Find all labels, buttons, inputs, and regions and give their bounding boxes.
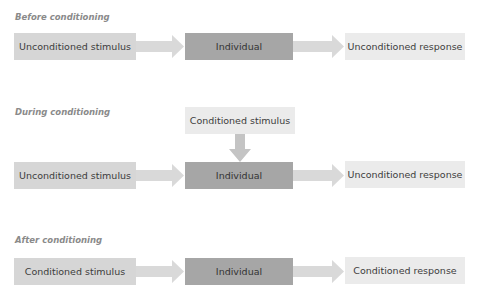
unconditioned-stimulus-box: Unconditioned stimulus [14, 162, 136, 189]
arrow-down-icon [228, 134, 252, 162]
section-title-before: Before conditioning [15, 12, 110, 22]
arrow-right-icon [136, 33, 185, 60]
individual-box: Individual [185, 33, 293, 60]
arrow-right-icon [136, 162, 185, 189]
arrow-right-icon [293, 33, 345, 60]
unconditioned-stimulus-box: Unconditioned stimulus [14, 33, 136, 60]
arrow-right-icon [136, 258, 185, 285]
section-title-during: During conditioning [15, 107, 110, 117]
conditioned-stimulus-box: Conditioned stimulus [185, 107, 295, 134]
individual-box: Individual [185, 162, 293, 189]
individual-box: Individual [185, 258, 293, 285]
unconditioned-response-box: Unconditioned response [345, 161, 465, 188]
conditioned-response-box: Conditioned response [345, 257, 465, 284]
conditioned-stimulus-box: Conditioned stimulus [14, 258, 136, 285]
section-title-after: After conditioning [15, 235, 102, 245]
arrow-right-icon [293, 162, 345, 189]
arrow-right-icon [293, 258, 345, 285]
unconditioned-response-box: Unconditioned response [345, 33, 465, 60]
